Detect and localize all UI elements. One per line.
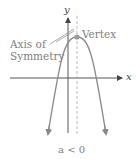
vertex-leader-line — [56, 31, 74, 42]
symmetry-leader-line — [50, 29, 74, 44]
x-axis-label: x — [126, 72, 132, 82]
parabola-diagram: y x Vertex Axis of Symmetry a < 0 — [0, 0, 136, 159]
vertex-point — [74, 34, 79, 39]
vertex-label: Vertex — [82, 29, 116, 40]
axis-of-symmetry-label-line1: Axis of — [10, 39, 46, 50]
axis-of-symmetry-label-line2: Symmetry — [10, 51, 64, 62]
parabola-left-arrow-icon — [48, 125, 50, 134]
condition-caption: a < 0 — [58, 145, 85, 155]
parabola-graph — [0, 0, 136, 159]
y-axis-label: y — [64, 5, 70, 15]
parabola-right-arrow-icon — [105, 125, 107, 134]
